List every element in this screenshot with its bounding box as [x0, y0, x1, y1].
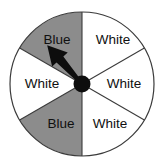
sector-label-0: Blue	[43, 32, 70, 47]
sector-label-5: White	[96, 32, 131, 47]
spinner-figure: BlueWhiteBlueWhiteWhiteWhite	[0, 0, 165, 167]
spinner-hub	[74, 76, 91, 93]
sector-label-1: White	[25, 76, 60, 91]
sector-label-4: White	[107, 76, 142, 91]
spinner-wheel[interactable]: BlueWhiteBlueWhiteWhiteWhite	[0, 0, 165, 167]
sector-label-2: Blue	[47, 116, 74, 131]
sector-label-3: White	[93, 116, 128, 131]
